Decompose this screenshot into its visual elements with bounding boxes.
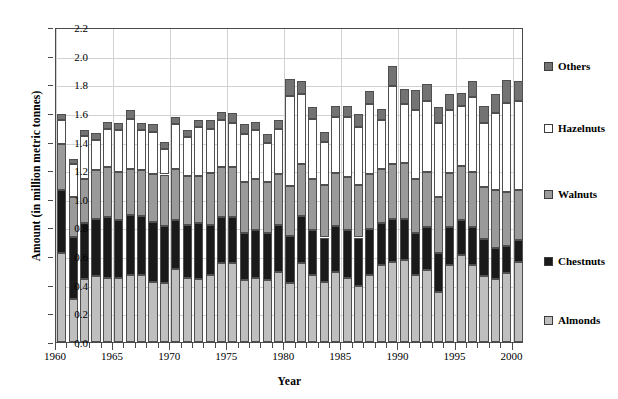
bar-segment-others <box>263 134 272 143</box>
bar-segment-hazelnuts <box>445 110 454 173</box>
bar-segment-almonds <box>228 263 237 342</box>
bar-segment-almonds <box>354 286 363 342</box>
y-tick-mark <box>48 28 53 29</box>
bar-1972 <box>194 120 203 342</box>
legend-item-almonds[interactable]: Almonds <box>544 314 600 326</box>
x-tick-mark <box>306 343 307 348</box>
bar-segment-chestnuts <box>148 222 157 282</box>
bar-segment-hazelnuts <box>320 142 329 185</box>
bar-segment-almonds <box>217 263 226 342</box>
bar-segment-hazelnuts <box>103 129 112 168</box>
bar-segment-walnuts <box>114 172 123 221</box>
bar-1969 <box>160 142 169 342</box>
bar-segment-others <box>114 123 123 130</box>
legend-item-chestnuts[interactable]: Chestnuts <box>544 255 605 267</box>
x-tick-label: 1990 <box>367 350 427 362</box>
x-tick-mark <box>432 343 433 348</box>
bar-segment-walnuts <box>388 164 397 218</box>
x-tick-mark <box>409 343 410 348</box>
x-tick-mark <box>158 343 159 348</box>
y-tick-mark <box>48 171 53 172</box>
x-tick-mark <box>375 343 376 348</box>
x-tick-label: 1975 <box>196 350 256 362</box>
bar-1963 <box>91 133 100 342</box>
bar-segment-chestnuts <box>297 216 306 263</box>
legend-item-hazelnuts[interactable]: Hazelnuts <box>544 122 605 134</box>
bar-segment-hazelnuts <box>137 130 146 170</box>
bar-segment-walnuts <box>502 192 511 246</box>
bar-segment-chestnuts <box>240 233 249 280</box>
y-tick-mark <box>48 143 53 144</box>
x-tick-mark <box>135 343 136 348</box>
bar-segment-chestnuts <box>171 220 180 269</box>
x-tick-mark <box>249 343 250 348</box>
bar-segment-hazelnuts <box>400 104 409 163</box>
bar-segment-walnuts <box>160 175 169 227</box>
bar-segment-hazelnuts <box>377 120 386 169</box>
bars-layer <box>56 29 522 342</box>
bar-segment-almonds <box>240 280 249 342</box>
bar-segment-walnuts <box>251 179 260 231</box>
bar-1991 <box>411 90 420 342</box>
bar-segment-chestnuts <box>251 230 260 277</box>
bar-segment-hazelnuts <box>457 106 466 166</box>
bar-1999 <box>502 80 511 342</box>
x-tick-label: 1965 <box>82 350 142 362</box>
bar-segment-hazelnuts <box>422 101 431 171</box>
x-tick-mark <box>203 343 204 348</box>
bar-segment-hazelnuts <box>479 123 488 187</box>
bar-segment-hazelnuts <box>251 130 260 179</box>
bar-segment-almonds <box>514 262 523 342</box>
x-tick-mark <box>226 343 227 350</box>
bar-segment-walnuts <box>479 187 488 239</box>
y-tick-mark <box>48 286 53 287</box>
bar-segment-others <box>502 80 511 103</box>
bar-segment-walnuts <box>126 169 135 215</box>
bar-segment-others <box>411 90 420 110</box>
x-tick-mark <box>363 343 364 348</box>
bar-1980 <box>285 79 294 342</box>
bar-segment-others <box>491 94 500 113</box>
bar-1997 <box>479 106 488 342</box>
x-tick-mark <box>500 343 501 348</box>
bar-segment-others <box>126 110 135 119</box>
bar-segment-walnuts <box>148 174 157 221</box>
bar-segment-chestnuts <box>228 217 237 263</box>
bar-segment-walnuts <box>468 172 477 228</box>
bar-segment-hazelnuts <box>343 117 352 177</box>
x-tick-mark <box>466 343 467 348</box>
y-tick-mark <box>48 85 53 86</box>
bar-segment-walnuts <box>365 174 374 228</box>
bar-segment-hazelnuts <box>126 119 135 169</box>
bar-segment-almonds <box>171 269 180 342</box>
bar-segment-others <box>343 106 352 117</box>
bar-segment-walnuts <box>445 173 454 227</box>
legend-item-walnuts[interactable]: Walnuts <box>544 188 597 200</box>
bar-segment-others <box>103 122 112 129</box>
bar-2000 <box>514 81 523 342</box>
bar-1968 <box>148 124 157 342</box>
bar-segment-almonds <box>57 253 66 342</box>
bar-segment-others <box>206 120 215 129</box>
bar-segment-hazelnuts <box>468 97 477 171</box>
x-tick-label: 1970 <box>139 350 199 362</box>
bar-segment-almonds <box>411 275 420 342</box>
legend-label: Hazelnuts <box>558 122 605 134</box>
bar-segment-walnuts <box>183 176 192 225</box>
bar-segment-chestnuts <box>491 248 500 280</box>
bar-segment-others <box>160 142 169 149</box>
x-tick-mark <box>146 343 147 348</box>
bar-1989 <box>388 66 397 342</box>
bar-segment-almonds <box>308 275 317 342</box>
bar-segment-almonds <box>377 265 386 342</box>
bar-segment-almonds <box>126 275 135 342</box>
legend-item-others[interactable]: Others <box>544 60 590 72</box>
bar-segment-almonds <box>285 283 294 342</box>
y-tick-mark <box>48 343 53 344</box>
x-tick-mark <box>443 343 444 348</box>
bar-segment-walnuts <box>331 173 340 226</box>
x-axis-title: Year <box>55 375 524 387</box>
bar-1971 <box>183 130 192 342</box>
bar-segment-others <box>251 122 260 131</box>
bar-segment-chestnuts <box>468 227 477 264</box>
